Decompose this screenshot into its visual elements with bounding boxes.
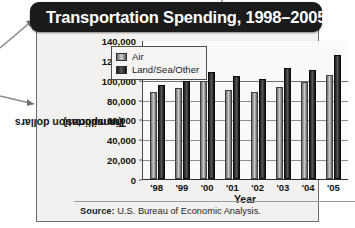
y-tick-label: 40,000 bbox=[107, 135, 136, 146]
bar-land-98 bbox=[158, 85, 165, 179]
source-note-label: Source: bbox=[80, 206, 115, 216]
bar-group-04 bbox=[301, 41, 316, 179]
bar-air-05 bbox=[326, 75, 333, 179]
bar-group-03 bbox=[276, 41, 291, 179]
x-tick-label: '05 bbox=[325, 182, 342, 193]
chart-legend: Air Land/Sea/Other bbox=[111, 46, 207, 80]
source-note-text: U.S. Bureau of Economic Analysis. bbox=[117, 206, 261, 216]
bar-group-01 bbox=[225, 41, 240, 179]
bar-land-99 bbox=[183, 81, 190, 179]
legend-swatch-icon-land bbox=[116, 66, 127, 74]
y-axis-title: Transportation dollars (in millions) bbox=[73, 47, 90, 197]
x-tick-label: '98 bbox=[148, 182, 165, 193]
bar-air-98 bbox=[150, 92, 157, 179]
x-tick-label: '01 bbox=[224, 182, 241, 193]
chart-figure-card: Transportation dollars (in millions) 140… bbox=[36, 6, 319, 222]
x-tick-label: '02 bbox=[249, 182, 266, 193]
y-tick-label: 140,000 bbox=[102, 36, 136, 47]
legend-item-air: Air bbox=[116, 50, 199, 63]
source-divider bbox=[74, 201, 355, 202]
legend-item-land: Land/Sea/Other bbox=[116, 63, 199, 76]
legend-label-air: Air bbox=[132, 51, 144, 62]
bar-air-03 bbox=[276, 87, 283, 179]
x-tick-label: '04 bbox=[300, 182, 317, 193]
x-tick-label: '00 bbox=[199, 182, 216, 193]
bar-land-02 bbox=[259, 79, 266, 179]
bar-air-01 bbox=[225, 90, 232, 179]
bar-land-03 bbox=[284, 68, 291, 179]
bar-land-01 bbox=[233, 76, 240, 179]
bar-group-02 bbox=[251, 41, 266, 179]
bar-land-04 bbox=[309, 70, 316, 179]
bar-air-99 bbox=[175, 88, 182, 179]
source-note: Source: U.S. Bureau of Economic Analysis… bbox=[80, 206, 261, 216]
bar-air-04 bbox=[301, 82, 308, 179]
chart-plot-container: Transportation dollars (in millions) 140… bbox=[74, 41, 355, 201]
chart-title-bar: Transportation Spending, 1998–2005 bbox=[30, 2, 322, 32]
bar-land-05 bbox=[334, 55, 341, 179]
page-title: Transportation Spending, 1998–2005 bbox=[46, 8, 326, 27]
bar-air-00 bbox=[200, 81, 207, 179]
x-tick-label: '03 bbox=[274, 182, 291, 193]
y-tick-label: 0 bbox=[131, 175, 136, 186]
bar-air-02 bbox=[251, 92, 258, 179]
y-tick-label: 60,000 bbox=[107, 115, 136, 126]
x-tick-label: '99 bbox=[173, 182, 190, 193]
legend-swatch-icon-air bbox=[116, 53, 127, 61]
legend-label-land: Land/Sea/Other bbox=[132, 64, 199, 75]
bar-group-05 bbox=[326, 41, 341, 179]
bar-land-00 bbox=[208, 72, 215, 179]
y-tick-label: 80,000 bbox=[107, 95, 136, 106]
x-axis-title: Year bbox=[142, 193, 348, 205]
y-tick-label: 20,000 bbox=[107, 155, 136, 166]
